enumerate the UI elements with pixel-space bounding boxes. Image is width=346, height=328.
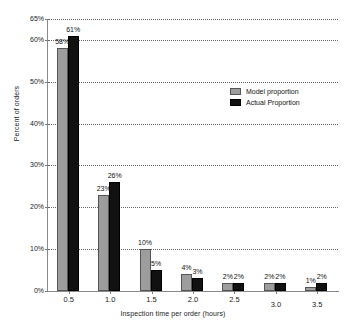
x-axis-tick-label: 1.0 (90, 295, 130, 304)
x-tick-mark (276, 291, 277, 294)
x-axis-tick-label: 0.5 (49, 295, 89, 304)
bar-actual (68, 36, 79, 291)
bar-actual (151, 270, 162, 291)
x-tick-mark (234, 291, 235, 294)
x-tick-mark (193, 291, 194, 294)
x-tick-mark (152, 291, 153, 294)
y-tick-mark (45, 207, 48, 208)
y-axis-tick-label: 0% (4, 287, 44, 294)
bar-group (264, 19, 286, 291)
y-tick-mark (45, 165, 48, 166)
bar-value-label-model: 10% (132, 239, 158, 246)
bar-value-label-actual: 2% (267, 273, 293, 280)
y-axis-tick-label: 10% (4, 245, 44, 252)
x-tick-mark (69, 291, 70, 294)
bar-actual (316, 283, 327, 291)
y-axis-title: Percent of orders (13, 59, 20, 169)
legend-label-actual: Actual Proportion (246, 99, 300, 106)
bar-value-label-actual: 5% (143, 260, 169, 267)
y-axis-tick-label: 65% (4, 15, 44, 22)
bar-group (98, 19, 120, 291)
bar-actual (233, 283, 244, 291)
y-tick-mark (45, 124, 48, 125)
x-tick-mark (317, 291, 318, 294)
legend-item-actual: Actual Proportion (230, 99, 300, 106)
x-axis-tick-label: 1.5 (132, 295, 172, 304)
y-axis-tick-label: 30% (4, 161, 44, 168)
bar-model (264, 283, 275, 291)
legend: Model proportion Actual Proportion (230, 88, 300, 110)
y-axis-tick-label: 40% (4, 120, 44, 127)
bar-actual (275, 283, 286, 291)
bar-model (305, 287, 316, 291)
y-axis-tick-label: 20% (4, 203, 44, 210)
bar-chart: Percent of orders Inspection time per or… (0, 0, 346, 328)
plot-area (48, 19, 338, 291)
bar-model (98, 195, 109, 291)
bar-group (305, 19, 327, 291)
bar-group (57, 19, 79, 291)
y-tick-mark (45, 291, 48, 292)
x-axis-tick-label: 2.5 (214, 295, 254, 304)
bar-group (222, 19, 244, 291)
y-tick-mark (45, 249, 48, 250)
y-tick-mark (45, 40, 48, 41)
y-tick-mark (45, 19, 48, 20)
y-tick-mark (45, 82, 48, 83)
bar-value-label-actual: 2% (226, 273, 252, 280)
bar-actual (109, 182, 120, 291)
x-axis-tick-label: 2.0 (173, 295, 213, 304)
legend-item-model: Model proportion (230, 88, 300, 95)
bar-actual (192, 278, 203, 291)
bar-model (140, 249, 151, 291)
x-axis-title: Inspection time per order (hours) (0, 310, 346, 317)
bar-model (57, 48, 68, 291)
bar-value-label-model: 23% (91, 185, 117, 192)
x-axis-tick-label: 3.5 (297, 300, 337, 309)
bar-value-label-model: 58% (49, 38, 75, 45)
bar-group (181, 19, 203, 291)
bar-value-label-actual: 2% (309, 273, 335, 280)
bar-value-label-actual: 3% (185, 268, 211, 275)
x-axis-tick-label: 3.0 (256, 300, 296, 309)
y-axis-tick-label: 60% (4, 36, 44, 43)
bar-model (222, 283, 233, 291)
legend-swatch-model (230, 88, 241, 95)
bar-value-label-actual: 26% (102, 172, 128, 179)
bar-value-label-actual: 61% (60, 26, 86, 33)
legend-label-model: Model proportion (246, 88, 299, 95)
bar-model (181, 274, 192, 291)
x-tick-mark (110, 291, 111, 294)
y-axis-tick-label: 50% (4, 78, 44, 85)
bar-group (140, 19, 162, 291)
legend-swatch-actual (230, 99, 241, 106)
